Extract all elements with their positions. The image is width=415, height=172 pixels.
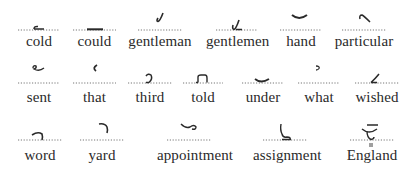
shorthand-entry: that [73,61,116,111]
shorthand-entry: sent [18,61,60,111]
shorthand-outline-icon [18,120,62,144]
word-label: gentlemen [206,33,268,49]
shorthand-outline-icon [216,10,258,34]
word-label: yard [70,147,134,163]
shorthand-outline-icon [80,120,124,144]
word-label: England [340,147,404,163]
shorthand-entry: appointment [167,118,211,168]
word-label: told [173,89,233,105]
word-label: assignment [253,147,317,163]
shorthand-entry: gentlemen [216,4,258,54]
shorthand-outline-icon [280,10,322,34]
shorthand-entry: what [298,61,340,111]
shorthand-entry: yard [80,118,124,168]
shorthand-outline-icon [183,63,223,87]
word-label: what [288,89,350,105]
shorthand-outline-icon [128,63,172,87]
word-label: particular [332,33,396,49]
shorthand-entry: England [350,118,394,168]
shorthand-entry: could [73,4,116,54]
shorthand-entry: hand [280,4,322,54]
shorthand-entry: wished [355,61,399,111]
shorthand-outline-icon [350,120,394,144]
shorthand-entry: cold [18,4,60,54]
word-label: sent [8,89,70,105]
shorthand-entry: gentleman [138,4,182,54]
word-label: appointment [157,147,221,163]
word-label: wished [345,89,409,105]
shorthand-entry: third [128,61,172,111]
shorthand-outline-icon [242,63,284,87]
shorthand-entry: assignment [263,118,307,168]
shorthand-outline-icon [18,63,60,87]
word-label: under [232,89,294,105]
shorthand-entry: word [18,118,62,168]
word-label: cold [8,33,70,49]
shorthand-outline-icon [342,10,386,34]
shorthand-outline-icon [73,10,116,34]
shorthand-outline-icon [263,120,307,144]
word-label: that [63,89,126,105]
shorthand-entry: particular [342,4,386,54]
word-label: word [8,147,72,163]
word-label: hand [270,33,332,49]
shorthand-entry: told [183,61,223,111]
shorthand-outline-icon [355,63,399,87]
word-label: could [63,33,126,49]
shorthand-outline-icon [138,10,182,34]
shorthand-outline-icon [167,120,211,144]
shorthand-outline-icon [298,63,340,87]
shorthand-outline-icon [18,10,60,34]
word-label: gentleman [128,33,192,49]
shorthand-entry: under [242,61,284,111]
shorthand-outline-icon [73,63,116,87]
